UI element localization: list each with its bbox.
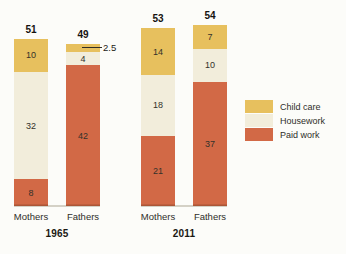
segment-value-label: 37 bbox=[205, 139, 215, 149]
segment-value-label: 42 bbox=[78, 131, 88, 141]
category-label-fathers-2011: Fathers bbox=[181, 211, 239, 222]
legend-label-housework: Housework bbox=[273, 116, 325, 126]
housework-swatch bbox=[245, 114, 273, 127]
segment-child-care-mothers-1965: 10 bbox=[14, 39, 48, 73]
segment-paid-work-mothers-2011: 21 bbox=[141, 136, 175, 206]
legend-item-paid-work: Paid work bbox=[245, 128, 325, 141]
bar-total-2011-fathers: 54 bbox=[185, 10, 235, 21]
segment-value-label: 21 bbox=[153, 166, 163, 176]
segment-value-label: 18 bbox=[153, 100, 163, 110]
year-label-2011: 2011 bbox=[141, 228, 227, 239]
segment-value-label: 14 bbox=[153, 47, 163, 57]
bar-total-1965-mothers: 51 bbox=[6, 24, 56, 35]
segment-paid-work-fathers-1965: 42 bbox=[66, 65, 100, 206]
legend-label-child-care: Child care bbox=[273, 102, 321, 112]
paid-work-swatch bbox=[245, 128, 273, 141]
bar-total-1965-fathers: 49 bbox=[58, 29, 108, 40]
segment-child-care-fathers-2011: 7 bbox=[193, 25, 227, 48]
segment-housework-fathers-1965: 4 bbox=[66, 52, 100, 65]
segment-value-label: 4 bbox=[80, 54, 85, 64]
segment-value-label: 10 bbox=[205, 60, 215, 70]
segment-paid-work-fathers-2011: 37 bbox=[193, 82, 227, 206]
segment-paid-work-mothers-1965: 8 bbox=[14, 179, 48, 206]
bar-total-2011-mothers: 53 bbox=[133, 13, 183, 24]
category-label-fathers-1965: Fathers bbox=[54, 211, 112, 222]
segment-value-label: 10 bbox=[26, 50, 36, 60]
segment-housework-mothers-1965: 32 bbox=[14, 72, 48, 179]
legend-item-housework: Housework bbox=[245, 114, 325, 127]
callout-value: 2.5 bbox=[103, 42, 116, 53]
segment-housework-fathers-2011: 10 bbox=[193, 49, 227, 83]
child-care-swatch bbox=[245, 100, 273, 113]
year-label-1965: 1965 bbox=[14, 228, 100, 239]
category-label-mothers-2011: Mothers bbox=[129, 211, 187, 222]
segment-value-label: 7 bbox=[207, 32, 212, 42]
legend-label-paid-work: Paid work bbox=[273, 130, 320, 140]
legend: Child care Housework Paid work bbox=[245, 100, 325, 142]
legend-item-child-care: Child care bbox=[245, 100, 325, 113]
category-label-mothers-1965: Mothers bbox=[2, 211, 60, 222]
segment-housework-mothers-2011: 18 bbox=[141, 75, 175, 135]
segment-value-label: 8 bbox=[28, 188, 33, 198]
segment-value-label: 32 bbox=[26, 121, 36, 131]
chart: Child care Housework Paid work 5110328Mo… bbox=[0, 0, 346, 254]
callout-line bbox=[82, 47, 102, 49]
segment-child-care-mothers-2011: 14 bbox=[141, 28, 175, 75]
